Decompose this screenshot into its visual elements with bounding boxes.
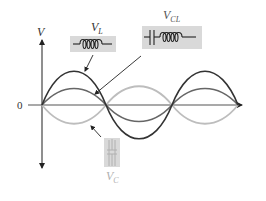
vc-pointer-arrow: [91, 126, 101, 137]
origin-label: 0: [17, 99, 23, 111]
vl-pointer-arrow: [85, 55, 93, 71]
vl-label: VL: [91, 20, 103, 36]
voltage-waveform-diagram: V 0 VL VCL: [0, 0, 266, 201]
vcl-label: VCL: [163, 8, 181, 24]
axes: [28, 40, 242, 168]
vcl-pointer-arrow: [95, 56, 141, 94]
vl-annotation: VL: [70, 20, 116, 71]
vc-annotation: VC: [91, 126, 120, 185]
y-axis-label: V: [37, 25, 46, 39]
vc-label: VC: [106, 169, 119, 185]
